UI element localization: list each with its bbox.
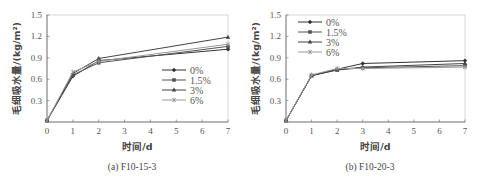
x-tick-label: 2 [96,126,101,136]
x-tick-label: 4 [386,126,391,136]
y-axis-label: 毛细吸水量/(kg/m²) [250,22,261,115]
chart-b: 012345670.30.60.91.21.5时间/d毛细吸水量/(kg/m²)… [250,10,468,173]
y-tick-label: 0.3 [31,96,43,106]
chart-a: 012345670.30.60.91.21.5时间/d毛细吸水量/(kg/m²)… [11,10,231,173]
y-tick-label: 1.5 [31,10,43,20]
figure-canvas: 012345670.30.60.91.21.5时间/d毛细吸水量/(kg/m²)… [0,0,477,184]
x-tick-label: 6 [437,126,442,136]
y-tick-label: 1.2 [270,31,281,41]
y-tick-label: 0.6 [31,74,43,84]
x-tick-label: 4 [148,126,153,136]
x-tick-label: 6 [200,126,205,136]
y-tick-label: 1.2 [31,31,42,41]
figure-caption: (a) F10-15-3 [108,162,157,173]
legend-label: 6% [190,95,203,106]
y-tick-label: 0.3 [270,96,282,106]
series-6% [284,65,467,123]
y-tick-label: 0.9 [31,53,43,63]
x-tick-label: 3 [360,126,365,136]
x-tick-label: 1 [71,126,76,136]
y-axis-label: 毛细吸水量/(kg/m²) [11,22,22,115]
x-tick-label: 7 [226,126,231,136]
x-tick-label: 7 [463,126,468,136]
x-tick-label: 0 [284,126,289,136]
x-axis-label: 时间/d [122,141,152,152]
legend-label: 6% [326,47,339,58]
series-3% [284,61,468,122]
x-tick-label: 1 [309,126,314,136]
x-axis-label: 时间/d [360,141,390,152]
x-tick-label: 2 [335,126,340,136]
legend: 0%1.5%3%6% [162,65,211,106]
figure-caption: (b) F10-20-3 [346,162,395,173]
y-tick-label: 0.6 [270,74,282,84]
x-tick-label: 5 [412,126,417,136]
x-tick-label: 0 [45,126,50,136]
x-tick-label: 3 [122,126,127,136]
y-tick-label: 0.9 [270,53,282,63]
x-tick-label: 5 [174,126,179,136]
legend: 0%1.5%3%6% [298,17,347,58]
y-tick-label: 1.5 [270,10,282,20]
